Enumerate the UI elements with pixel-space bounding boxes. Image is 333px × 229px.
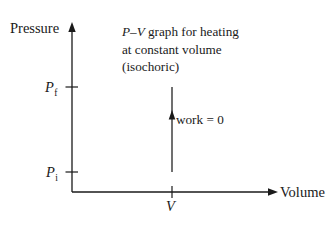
volume-axis-title: Volume	[280, 185, 325, 200]
annotation-line-3: (isochoric)	[122, 58, 239, 76]
tick-label-pi-symbol: P	[46, 164, 55, 180]
annotation-line-2: at constant volume	[122, 41, 239, 59]
tick-label-pf: Pf	[45, 80, 57, 95]
work-equals-zero-label: work = 0	[176, 113, 224, 126]
tick-label-pf-symbol: P	[45, 79, 54, 95]
tick-label-pi: Pi	[46, 165, 58, 180]
tick-label-pi-subscript: i	[55, 173, 58, 183]
process-direction-arrowhead	[169, 110, 176, 120]
volume-axis-arrowhead	[268, 188, 278, 195]
tick-label-v: V	[166, 199, 175, 214]
annotation-line-1-rest: graph for heating	[145, 24, 239, 39]
pv-diagram-figure: Pressure Volume Pf Pi V P–V graph for he…	[0, 0, 333, 229]
graph-annotation-text: P–V graph for heating at constant volume…	[122, 23, 239, 76]
annotation-pv-symbol: P–V	[122, 24, 145, 39]
pressure-axis-title: Pressure	[10, 21, 59, 36]
pressure-axis-arrowhead	[68, 22, 75, 32]
tick-label-pf-subscript: f	[54, 88, 57, 98]
annotation-line-1: P–V graph for heating	[122, 23, 239, 41]
